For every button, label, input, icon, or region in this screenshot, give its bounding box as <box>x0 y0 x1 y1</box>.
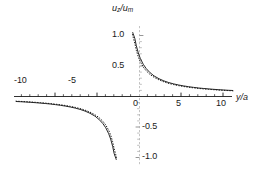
plot-canvas <box>0 0 260 174</box>
x-tick-label-0: 0 <box>133 99 138 108</box>
curve-dotted-positive-branch <box>133 34 233 91</box>
curve-solid-negative-branch <box>16 101 116 159</box>
x-axis-title: y/a <box>236 92 248 102</box>
y-axis-title: uz/um <box>112 3 133 15</box>
x-tick-label-5: 5 <box>176 99 181 108</box>
y-tick-label-minus-0-5: -0.5 <box>142 122 157 131</box>
curve-dotted-negative-branch <box>16 101 116 158</box>
y-axis-title-denominator-sub: m <box>128 6 133 13</box>
x-tick-label-minus-10: -10 <box>14 76 27 85</box>
curve-solid-positive-branch <box>133 32 233 90</box>
y-tick-label-minus-1: -1.0 <box>142 152 157 161</box>
y-tick-label-0-5: 0.5 <box>112 61 124 70</box>
y-tick-label-1: 1.0 <box>112 30 124 39</box>
x-tick-label-minus-5: -5 <box>68 76 76 85</box>
data-curves <box>16 32 233 160</box>
plot-figure: uz/um y/a -10 -5 0 5 10 1.0 0.5 -0.5 -1.… <box>0 0 260 174</box>
x-tick-label-10: 10 <box>216 99 226 108</box>
